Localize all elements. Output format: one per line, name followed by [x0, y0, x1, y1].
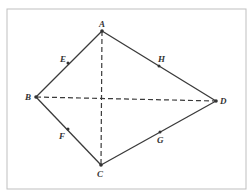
- label-h: H: [157, 54, 166, 64]
- diagonal-bd: [36, 97, 216, 101]
- label-g: G: [157, 135, 164, 145]
- point-h: [158, 65, 161, 68]
- point-c: [99, 163, 103, 167]
- point-b: [34, 95, 38, 99]
- point-g: [159, 131, 162, 134]
- kite-diagram: A B C D E F G H: [0, 0, 251, 196]
- point-e: [67, 62, 70, 65]
- label-a: A: [98, 19, 105, 29]
- label-b: B: [24, 92, 31, 102]
- point-d: [214, 99, 218, 103]
- label-c: C: [97, 169, 104, 179]
- label-d: D: [219, 96, 227, 106]
- side-bc: [36, 97, 101, 165]
- point-a: [100, 29, 104, 33]
- label-f: F: [58, 131, 65, 141]
- label-e: E: [59, 54, 66, 64]
- side-cd: [101, 101, 216, 165]
- point-f: [67, 128, 70, 131]
